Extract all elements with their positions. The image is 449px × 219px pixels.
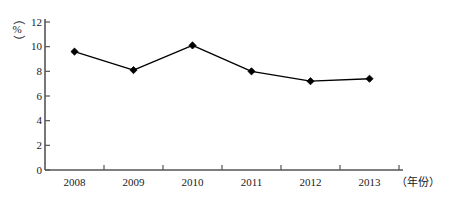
plot-area: [0, 0, 449, 219]
data-markers: [71, 42, 373, 85]
data-point-marker: [71, 48, 78, 55]
data-point-marker: [130, 67, 137, 74]
data-point-marker: [307, 78, 314, 85]
data-point-marker: [248, 68, 255, 75]
axes: [45, 19, 403, 170]
line-chart: （ % ） 024681012 200820092010201120122013…: [0, 0, 449, 219]
data-point-marker: [366, 75, 373, 82]
series-line: [75, 45, 370, 81]
data-point-marker: [189, 42, 196, 49]
data-series: [75, 45, 370, 81]
